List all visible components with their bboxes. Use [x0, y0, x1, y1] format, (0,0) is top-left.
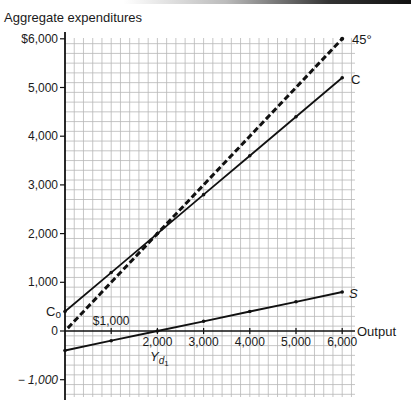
data-point: [156, 329, 160, 333]
line-label-s: S: [349, 286, 358, 301]
data-point: [294, 300, 298, 304]
series-45-degree-line: [68, 39, 342, 328]
y-tick-label: 4,000: [28, 129, 58, 143]
data-point: [248, 310, 252, 314]
data-point: [156, 232, 160, 236]
yd-subsub: 1: [164, 359, 169, 368]
y-tick-label: 2,000: [28, 227, 58, 241]
chart: $6,0005,0004,0003,0002,0001,0000− 1,000$…: [0, 0, 411, 415]
x-tick-label: $1,000: [93, 314, 130, 328]
data-point: [294, 115, 298, 119]
svg-text:Co: Co: [46, 304, 61, 320]
data-point: [63, 349, 67, 353]
data-point: [109, 271, 113, 275]
x-tick-label: 3,000: [189, 335, 219, 349]
c0-annotation: Co: [46, 304, 61, 320]
y-tick-label: 0: [51, 324, 58, 338]
c0-sub: o: [55, 309, 61, 320]
data-point: [202, 193, 206, 197]
x-tick-label: 2,000: [142, 335, 172, 349]
data-point: [248, 154, 252, 158]
x-axis-title: Output: [357, 324, 396, 339]
c0-main: C: [46, 304, 55, 319]
x-tick-label: 6,000: [327, 335, 357, 349]
x-tick-label: 4,000: [235, 335, 265, 349]
line-label-c: C: [351, 72, 360, 87]
data-point: [63, 310, 67, 314]
data-point: [340, 290, 344, 294]
y-tick-label: 5,000: [28, 81, 58, 95]
y-tick-label: − 1,000: [18, 373, 59, 387]
y-axis-title: Aggregate expenditures: [4, 10, 143, 25]
line-label-45: 45°: [352, 32, 372, 47]
data-point: [340, 37, 344, 41]
data-point: [109, 339, 113, 343]
y-tick-label: 1,000: [28, 275, 58, 289]
y-tick-label: 3,000: [28, 178, 58, 192]
data-point: [340, 76, 344, 80]
x-tick-label: 5,000: [281, 335, 311, 349]
data-point: [202, 319, 206, 323]
y-tick-label: $6,000: [21, 32, 58, 46]
